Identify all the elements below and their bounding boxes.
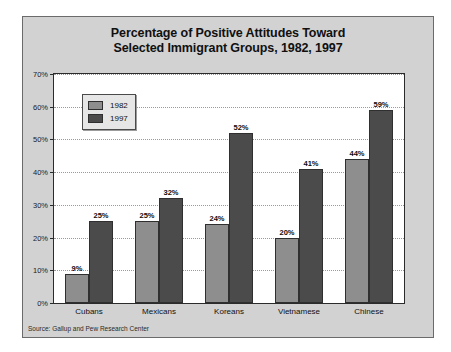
y-axis-tick-label: 10% (33, 266, 48, 275)
y-axis-tick-label: 60% (33, 102, 48, 111)
bar-value-label: 59% (373, 100, 388, 109)
bar: 9% (65, 274, 89, 303)
y-axis-tick-label: 0% (37, 299, 48, 308)
chart-title-line-2: Selected Immigrant Groups, 1982, 1997 (23, 41, 433, 56)
y-axis-tick-label: 50% (33, 135, 48, 144)
bar-value-label: 44% (349, 149, 364, 158)
x-axis-category-label: Vietnamese (278, 307, 320, 316)
bar: 41% (299, 169, 323, 303)
chart-figure: Percentage of Positive Attitudes Toward … (22, 16, 434, 338)
bar-group: 44%59%Chinese (345, 74, 393, 303)
legend-item: 1997 (88, 112, 128, 125)
x-axis-category-label: Koreans (214, 307, 244, 316)
legend-swatch-1982-icon (88, 101, 103, 110)
legend-swatch-1997-icon (88, 114, 103, 123)
bar-value-label: 52% (233, 123, 248, 132)
y-axis-tick-label: 40% (33, 168, 48, 177)
bar-value-label: 24% (209, 214, 224, 223)
bar: 32% (159, 198, 183, 303)
x-axis-category-label: Cubans (75, 307, 103, 316)
bar-value-label: 32% (163, 188, 178, 197)
bar: 24% (205, 224, 229, 303)
bar: 25% (135, 221, 159, 303)
chart-title-line-1: Percentage of Positive Attitudes Toward (23, 26, 433, 41)
x-axis-category-label: Chinese (354, 307, 383, 316)
y-axis-tick-label: 20% (33, 233, 48, 242)
chart-title: Percentage of Positive Attitudes Toward … (23, 26, 433, 56)
y-axis-tick-mark (50, 303, 54, 304)
legend-item: 1982 (88, 99, 128, 112)
bar: 25% (89, 221, 113, 303)
bar-group: 24%52%Koreans (205, 74, 253, 303)
y-axis-tick-label: 70% (33, 70, 48, 79)
chart-legend: 1982 1997 (82, 94, 136, 130)
bar: 20% (275, 238, 299, 303)
legend-label-1982: 1982 (110, 102, 128, 110)
plot-area: 0%10%20%30%40%50%60%70% 9%25%Cubans25%32… (53, 73, 405, 304)
bar-value-label: 20% (279, 228, 294, 237)
bar-value-label: 25% (93, 211, 108, 220)
bar-group: 20%41%Vietnamese (275, 74, 323, 303)
legend-label-1997: 1997 (110, 115, 128, 123)
bar: 59% (369, 110, 393, 303)
bar-group: 25%32%Mexicans (135, 74, 183, 303)
plot-inner: 0%10%20%30%40%50%60%70% 9%25%Cubans25%32… (54, 74, 404, 303)
bar: 52% (229, 133, 253, 303)
source-note: Source: Gallup and Pew Research Center (28, 325, 149, 332)
bar-value-label: 25% (139, 211, 154, 220)
y-axis-tick-label: 30% (33, 200, 48, 209)
bar-value-label: 41% (303, 159, 318, 168)
bar-value-label: 9% (72, 264, 83, 273)
x-axis-category-label: Mexicans (142, 307, 176, 316)
bar: 44% (345, 159, 369, 303)
